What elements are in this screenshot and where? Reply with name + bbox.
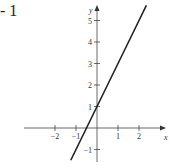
- x-tick-label: 1: [116, 132, 120, 141]
- x-tick-label: −1: [72, 132, 81, 141]
- x-axis-label: x: [163, 133, 168, 142]
- y-axis-arrow-icon: [95, 5, 100, 11]
- y-tick-label: −1: [83, 146, 92, 155]
- x-tick-label: −2: [51, 132, 60, 141]
- y-axis-label: y: [88, 6, 93, 15]
- y-tick-label: 4: [88, 38, 92, 47]
- x-tick-label: 2: [137, 132, 141, 141]
- tick-labels: −2−112−112345: [51, 17, 141, 155]
- x-axis-arrow-icon: [160, 126, 166, 131]
- y-tick-label: 1: [88, 103, 92, 112]
- y-tick-label: 3: [88, 60, 92, 69]
- data-line: [71, 5, 147, 160]
- y-tick-label: 2: [88, 81, 92, 90]
- y-tick-label: 5: [88, 17, 92, 26]
- line-chart: −2−112−112345 x y: [0, 0, 170, 166]
